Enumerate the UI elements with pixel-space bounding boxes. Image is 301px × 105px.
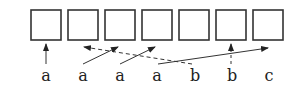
cell-1 bbox=[68, 10, 98, 40]
arrow-a3-to-cell6 bbox=[158, 48, 268, 64]
cell-0 bbox=[31, 10, 61, 40]
key-label: a bbox=[41, 66, 51, 85]
key-label: a bbox=[78, 66, 88, 85]
key-label: a bbox=[115, 66, 125, 85]
arrows bbox=[46, 44, 268, 64]
cell-5 bbox=[216, 10, 246, 40]
cell-2 bbox=[105, 10, 135, 40]
arrow-a2-to-cell3 bbox=[120, 47, 155, 64]
key-label: b bbox=[227, 66, 237, 85]
cells bbox=[31, 10, 283, 40]
key-label: a bbox=[152, 66, 162, 85]
key-label: b bbox=[190, 66, 200, 85]
key-label: c bbox=[265, 66, 274, 85]
labels: a a a a b b c bbox=[41, 66, 273, 85]
hash-table-diagram: a a a a b b c bbox=[0, 0, 301, 105]
cell-3 bbox=[142, 10, 172, 40]
cell-6 bbox=[253, 10, 283, 40]
cell-4 bbox=[179, 10, 209, 40]
